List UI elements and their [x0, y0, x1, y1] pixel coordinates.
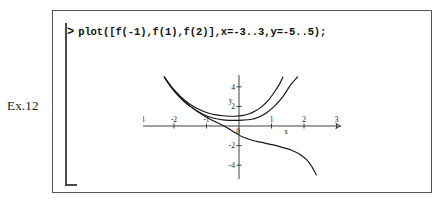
x-tick-label--2: -2 — [171, 115, 177, 124]
y-tick-label--4: -4 — [229, 161, 235, 170]
exercise-label: Ex.12 — [7, 98, 39, 114]
y-tick-label-4: 4 — [231, 83, 235, 92]
maple-input-line[interactable]: > plot([f(-1),f(1),f(2)],x=-3..3,y=-5..5… — [67, 23, 326, 41]
execution-group-bracket[interactable] — [65, 23, 77, 186]
x-tick-label-3: 3 — [335, 115, 339, 124]
y-axis-label: y — [229, 96, 233, 105]
command-input[interactable]: plot([f(-1),f(1),f(2)],x=-3..3,y=-5..5); — [78, 27, 326, 38]
worksheet-page: Ex.12 > plot([f(-1),f(1),f(2)],x=-3..3,y… — [0, 0, 445, 203]
x-tick-label-0: 0 — [236, 127, 240, 136]
axes-group — [143, 75, 341, 179]
x-axis-label: x — [284, 127, 288, 136]
x-tick-label--3: -3 — [143, 115, 145, 124]
prompt-icon: > — [67, 26, 74, 38]
y-tick-label--2: -2 — [229, 141, 235, 150]
worksheet-frame: > plot([f(-1),f(1),f(2)],x=-3..3,y=-5..5… — [52, 10, 432, 193]
plot-canvas: -3-2-1012342-2-4xy — [143, 56, 358, 186]
plot-output-region[interactable]: -3-2-1012342-2-4xy — [143, 56, 358, 186]
x-tick-label-2: 2 — [302, 115, 306, 124]
x-tick-label--1: -1 — [203, 115, 209, 124]
curve-f-1 — [164, 77, 283, 116]
x-tick-label-1: 1 — [270, 115, 274, 124]
